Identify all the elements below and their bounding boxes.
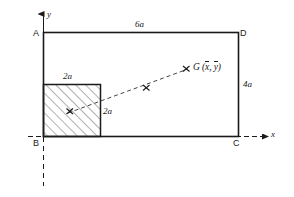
y-axis-label: y: [47, 9, 51, 19]
centroid-xbar: x: [205, 62, 209, 72]
centroid-label: G(x,y): [193, 62, 221, 72]
x-axis-label: x: [271, 129, 275, 139]
centroid-ybar: y: [214, 62, 218, 72]
corner-label-a: A: [33, 28, 39, 38]
figure-svg: [0, 0, 294, 197]
midpoint-marker: [143, 85, 150, 91]
centroid-label-g: G: [193, 62, 200, 72]
corner-label-d: D: [240, 28, 247, 38]
square-top-dimension-label: 2a: [63, 71, 72, 81]
diagram-canvas: A D B C 6a 4a 2a 2a y x G(x,y): [0, 0, 294, 197]
hatched-square: [44, 85, 101, 137]
corner-label-b: B: [33, 138, 39, 148]
centroid-comma: ,: [209, 62, 211, 72]
square-side-dimension-label: 2a: [103, 106, 112, 116]
width-dimension-label: 6a: [135, 19, 144, 29]
centroid-label-close: ): [218, 62, 221, 72]
height-dimension-label: 4a: [243, 79, 252, 89]
overall-centroid-marker: [183, 66, 190, 72]
corner-label-c: C: [233, 138, 240, 148]
